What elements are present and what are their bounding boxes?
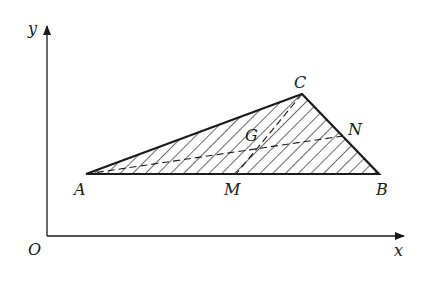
point-m-label: M <box>223 180 241 199</box>
x-axis-label: x <box>394 241 403 260</box>
point-b-label: B <box>375 180 388 199</box>
origin-label: O <box>28 240 41 259</box>
y-axis-label: y <box>27 19 38 38</box>
point-c-label: C <box>294 73 306 92</box>
triangle-abc-fill <box>86 94 379 174</box>
point-a-label: A <box>72 180 86 199</box>
point-g-label: G <box>245 126 258 145</box>
diagram-canvas: y x O A B C M N G <box>0 0 422 283</box>
point-n-label: N <box>347 120 363 139</box>
